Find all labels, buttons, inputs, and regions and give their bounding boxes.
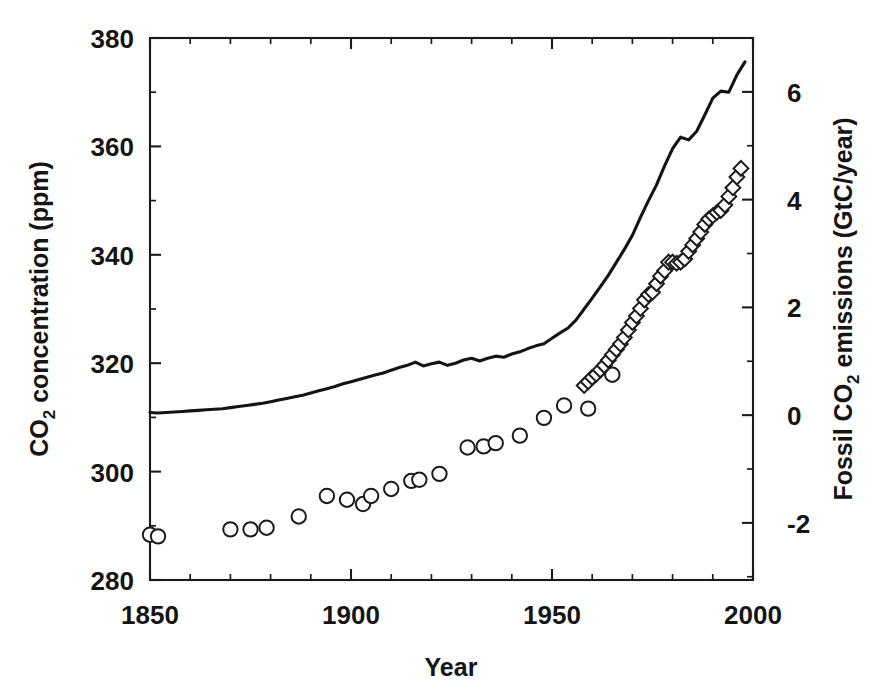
emissions-circle-marker [320,489,334,503]
y2-tick-label-2: 2 [787,293,801,323]
y2-tick-label-0: 0 [787,401,801,431]
y-tick-label-320: 320 [91,349,134,379]
x-tick-label-2000: 2000 [724,600,782,630]
y2-tick-label-6: 6 [787,78,801,108]
x-tick-label-1850: 1850 [121,600,179,630]
emissions-circle-marker [432,467,446,481]
y-tick-label-280: 280 [91,566,134,596]
emissions-circle-marker [581,401,595,415]
emissions-circle-marker [151,529,165,543]
emissions-circle-marker [513,428,527,442]
emissions-circle-marker [460,440,474,454]
emissions-circle-marker [557,398,571,412]
y-tick-label-360: 360 [91,132,134,162]
co2-figure: 1850190019502000280300320340360380-20246… [0,0,882,698]
y-tick-label-300: 300 [91,458,134,488]
emissions-circle-marker [223,522,237,536]
chart-canvas: 1850190019502000280300320340360380-20246… [0,0,882,698]
x-tick-label-1950: 1950 [523,600,581,630]
y2-tick-label-4: 4 [787,186,802,216]
y2-tick-label--2: -2 [787,509,810,539]
emissions-circle-marker [340,493,354,507]
emissions-circle-marker [412,473,426,487]
emissions-circle-marker [537,411,551,425]
emissions-circle-marker [364,489,378,503]
emissions-circle-marker [489,436,503,450]
x-tick-label-1900: 1900 [322,600,380,630]
emissions-circle-marker [259,521,273,535]
x-axis-title: Year [425,653,478,681]
emissions-circle-marker [292,509,306,523]
y-tick-label-380: 380 [91,24,134,54]
emissions-circle-marker [243,522,257,536]
emissions-circle-marker [384,482,398,496]
y-tick-label-340: 340 [91,241,134,271]
